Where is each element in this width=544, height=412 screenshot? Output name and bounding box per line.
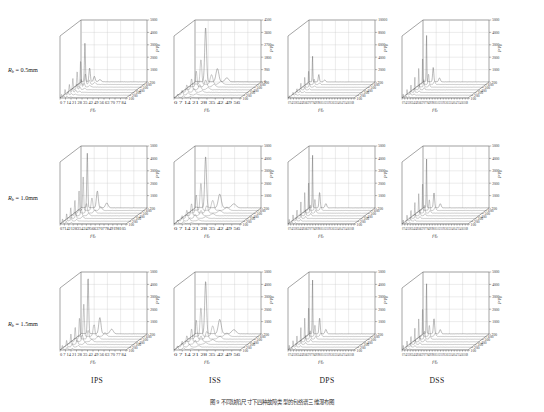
svg-text:700: 700 [492, 207, 498, 211]
waterfall-plot: 1000200030004000500007142128354249566370… [376, 2, 488, 120]
waterfall-trace [78, 62, 144, 85]
svg-text:0 7 14 21 28 35 42 49 56: 0 7 14 21 28 35 42 49 56 [174, 227, 241, 231]
svg-text:f/fc: f/fc [204, 233, 210, 239]
waterfall-trace [306, 183, 372, 211]
waterfall-trace [409, 210, 475, 218]
waterfall-plot: 090018002700360045000 7 14 21 28 35 42 4… [148, 2, 260, 120]
waterfall-trace [288, 96, 354, 98]
waterfall-trace [288, 219, 354, 224]
waterfall-trace [413, 203, 479, 216]
col-label-dps: DPS [272, 376, 382, 385]
svg-text:0 7 14 21 28 35 42 49 56: 0 7 14 21 28 35 42 49 56 [174, 353, 241, 357]
svg-text:1000: 1000 [492, 68, 499, 72]
waterfall-plot: 100020003000400050000 7 14 21 28 35 42 4… [34, 254, 146, 372]
waterfall-plot: 2000400060008000100000714212835424956637… [262, 2, 374, 120]
waterfall-trace [181, 210, 247, 218]
svg-text:071421283542495663707784919810: 0714212835424956637077849198105112119126… [402, 227, 468, 231]
waterfall-trace [413, 77, 479, 90]
svg-text:2000: 2000 [492, 56, 499, 60]
svg-text:1000: 1000 [492, 320, 499, 324]
waterfall-trace [192, 308, 258, 336]
panel-panel-dss-05: 1000200030004000500007142128354249566370… [376, 2, 488, 120]
waterfall-trace [423, 159, 489, 208]
svg-text:071421283542495663707784919810: 0714212835424956637077849198105112119126… [288, 353, 354, 357]
svg-text:071421283542495663707784919810: 0714212835424956637077849198105112119126… [402, 353, 468, 357]
svg-text:f/fc: f/fc [318, 359, 324, 365]
waterfall-trace [64, 214, 130, 221]
waterfall-trace [299, 202, 365, 216]
waterfall-trace [60, 94, 126, 98]
waterfall-trace [288, 345, 354, 350]
svg-text:f/fc: f/fc [318, 233, 324, 239]
waterfall-trace [181, 85, 247, 92]
svg-text:071421283542495663707784919810: 0714212835424956637077849198105 [60, 227, 126, 231]
svg-text:4000: 4000 [492, 31, 499, 35]
waterfall-plot: 1000200030004000500007142128354249566370… [262, 128, 374, 246]
svg-text:f/fc: f/fc [432, 107, 438, 113]
waterfall-trace [420, 309, 486, 336]
waterfall-plot: 1000200030004000500007142128354249566370… [376, 128, 488, 246]
panel-panel-dps-05: 2000400060008000100000714212835424956637… [262, 2, 374, 120]
row-label-rb-05: Rb = 0.5mm [8, 66, 38, 74]
svg-text:f/fc: f/fc [90, 233, 96, 239]
waterfall-trace [195, 28, 261, 82]
svg-text:071421283542495663707784919810: 0714212835424956637077849198105112119126… [402, 101, 468, 105]
svg-text:0 7 14 21 28 35 42 49 56: 0 7 14 21 28 35 42 49 56 [174, 101, 241, 105]
svg-text:071421283542495663707784919810: 0714212835424956637077849198105112119126… [288, 227, 354, 231]
svg-text:f/fc: f/fc [90, 359, 96, 365]
waterfall-trace [81, 43, 147, 82]
svg-text:5000: 5000 [492, 144, 499, 148]
svg-text:f/fc: f/fc [204, 359, 210, 365]
waterfall-trace [413, 328, 479, 342]
waterfall-plot: 1000200030004000500007142128354249566370… [262, 254, 374, 372]
svg-text:1000: 1000 [492, 194, 499, 198]
svg-text:2000: 2000 [492, 182, 499, 186]
waterfall-trace [185, 329, 251, 342]
waterfall-trace [423, 284, 489, 334]
svg-text:f/fc: f/fc [204, 107, 210, 113]
waterfall-trace [192, 60, 258, 85]
waterfall-trace [309, 280, 375, 334]
svg-text:f/fc: f/fc [432, 359, 438, 365]
figure-caption: 图 9 不同缺陷尺寸下四种故障类型的包络谱三维瀑布图 [0, 398, 544, 406]
waterfall-trace [78, 177, 144, 211]
figure-root: 100020003000400050000 7 14 21 28 35 42 4… [0, 0, 544, 412]
waterfall-trace [406, 215, 472, 221]
panel-panel-ips-15: 100020003000400050000 7 14 21 28 35 42 4… [34, 254, 146, 372]
panel-panel-dps-15: 1000200030004000500007142128354249566370… [262, 254, 374, 372]
waterfall-trace [81, 279, 147, 334]
svg-text:f/fc: f/fc [432, 233, 438, 239]
waterfall-trace [71, 78, 137, 89]
svg-text:700: 700 [492, 333, 498, 337]
svg-text:f/fc: f/fc [318, 107, 324, 113]
panel-panel-ips-05: 100020003000400050000 7 14 21 28 35 42 4… [34, 2, 146, 120]
waterfall-trace [295, 89, 361, 93]
waterfall-trace [81, 153, 147, 208]
waterfall-trace [423, 35, 489, 81]
waterfall-plot: 1000200030004000500007142128354249566370… [376, 254, 488, 372]
waterfall-trace [420, 59, 486, 85]
waterfall-trace [420, 184, 486, 210]
panel-panel-iss-15: 100020003000400050000 7 14 21 28 35 42 4… [148, 254, 260, 372]
waterfall-trace [178, 90, 244, 95]
waterfall-trace [402, 94, 468, 98]
col-label-dss: DSS [382, 376, 492, 385]
waterfall-trace [188, 71, 254, 87]
row-label-rb-15: Rb = 1.5mm [8, 320, 38, 328]
row-label-rb-10: Rb = 1.0mm [8, 194, 38, 202]
waterfall-trace [192, 183, 258, 210]
waterfall-plot: 1000200030004000500007142128354249566370… [34, 128, 146, 246]
panel-panel-iss-05: 090018002700360045000 7 14 21 28 35 42 4… [148, 2, 260, 120]
panel-panel-dss-10: 1000200030004000500007142128354249566370… [376, 128, 488, 246]
waterfall-plot: 100020003000400050000 7 14 21 28 35 42 4… [148, 254, 260, 372]
svg-text:071421283542495663707784919810: 0714212835424956637077849198105112119126… [288, 101, 354, 105]
waterfall-trace [174, 220, 240, 224]
svg-text:5000: 5000 [492, 18, 499, 22]
waterfall-trace [306, 308, 372, 336]
svg-text:0 7 14 21 28 35 42 49 56 63 70: 0 7 14 21 28 35 42 49 56 63 70 77 84 [60, 353, 126, 357]
waterfall-trace [306, 71, 372, 84]
waterfall-trace [309, 56, 375, 82]
waterfall-trace [195, 282, 261, 334]
waterfall-trace [64, 340, 130, 347]
svg-text:f/fc: f/fc [90, 107, 96, 113]
